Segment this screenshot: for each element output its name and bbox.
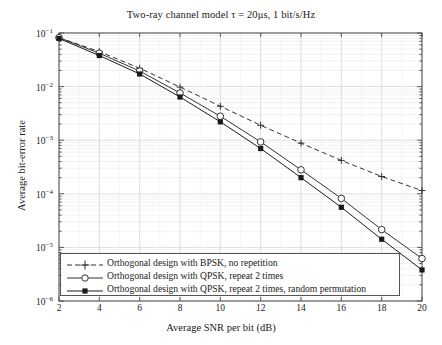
legend-item-qpsk-random-perm: Orthogonal design with QPSK, repeat 2 ti…: [65, 282, 366, 295]
legend-label: Orthogonal design with QPSK, repeat 2 ti…: [105, 283, 366, 295]
x-tick-label: 18: [367, 303, 397, 313]
y-tick-label: 10−2: [19, 81, 53, 93]
legend-swatch-dashed-plus: [65, 257, 105, 269]
y-tick-label: 10−5: [19, 241, 53, 253]
x-tick-label: 10: [205, 303, 235, 313]
x-tick-label: 8: [165, 303, 195, 313]
legend-swatch-solid-circle: [65, 270, 105, 282]
x-tick-label: 16: [326, 303, 356, 313]
y-tick-label: 10−1: [19, 27, 53, 39]
x-axis-label: Average SNR per bit (dB): [0, 322, 442, 333]
y-tick-label: 10−3: [19, 134, 53, 146]
y-tick-label: 10−4: [19, 188, 53, 200]
legend-label: Orthogonal design with QPSK, repeat 2 ti…: [105, 270, 283, 282]
legend: Orthogonal design with BPSK, no repetiti…: [60, 253, 400, 296]
legend-item-qpsk-repeat2: Orthogonal design with QPSK, repeat 2 ti…: [65, 269, 283, 282]
x-tick-label: 20: [407, 303, 437, 313]
x-tick-label: 6: [125, 303, 155, 313]
chart-figure: Two-ray channel model τ = 20μs, 1 bit/s/…: [0, 0, 442, 345]
x-tick-label: 12: [246, 303, 276, 313]
x-tick-label: 14: [286, 303, 316, 313]
x-tick-label: 4: [84, 303, 114, 313]
legend-item-bpsk: Orthogonal design with BPSK, no repetiti…: [65, 256, 278, 269]
y-axis-label: Average bit-error rate: [16, 91, 27, 241]
y-tick-label: 10−6: [19, 295, 53, 307]
legend-label: Orthogonal design with BPSK, no repetiti…: [105, 257, 278, 269]
legend-swatch-solid-square: [65, 283, 105, 295]
